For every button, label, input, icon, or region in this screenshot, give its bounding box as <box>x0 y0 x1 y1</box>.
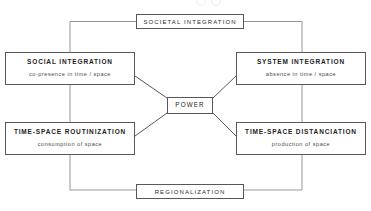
node-system-integration[interactable]: SYSTEM INTEGRATION absence in time / spa… <box>236 52 366 85</box>
wire-system-to-power <box>213 76 236 98</box>
node-subtitle: production of space <box>272 142 330 148</box>
node-subtitle: consumption of space <box>38 142 102 148</box>
node-power[interactable]: POWER <box>167 97 213 114</box>
node-regionalization[interactable]: REGIONALIZATION <box>136 184 244 199</box>
node-title: REGIONALIZATION <box>155 189 226 195</box>
diagram-canvas: SOCIAL INTEGRATION co-presence in time /… <box>0 0 371 211</box>
node-title: POWER <box>175 102 204 108</box>
node-social-integration[interactable]: SOCIAL INTEGRATION co-presence in time /… <box>5 52 135 85</box>
wire-social-to-power <box>135 76 167 98</box>
wire-distanciation-to-power <box>213 113 236 136</box>
wire-routinization-to-power <box>135 113 167 136</box>
node-title: SOCIETAL INTEGRATION <box>143 19 236 25</box>
node-time-space-routinization[interactable]: TIME-SPACE ROUTINIZATION consumption of … <box>5 122 135 155</box>
node-title: TIME-SPACE DISTANCIATION <box>245 129 357 136</box>
node-subtitle: absence in time / space <box>266 72 336 78</box>
node-societal-integration[interactable]: SOCIETAL INTEGRATION <box>136 14 244 29</box>
node-title: SYSTEM INTEGRATION <box>257 59 345 66</box>
scan-artifact <box>211 0 221 6</box>
node-title: SOCIAL INTEGRATION <box>27 59 113 66</box>
scan-artifact <box>196 0 206 6</box>
node-title: TIME-SPACE ROUTINIZATION <box>14 129 126 136</box>
node-time-space-distanciation[interactable]: TIME-SPACE DISTANCIATION production of s… <box>236 122 366 155</box>
node-subtitle: co-presence in time / space <box>29 72 111 78</box>
